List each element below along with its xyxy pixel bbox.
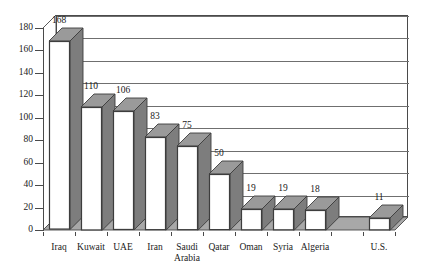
x-axis-tick	[331, 232, 332, 236]
y-axis-tick-label: 100	[2, 112, 33, 122]
y-axis-tick-stub	[35, 230, 43, 231]
y-axis-tick-stub	[35, 118, 43, 119]
y-axis-tick-label: 120	[2, 89, 33, 99]
y-axis-tick-stub	[35, 28, 43, 29]
y-axis-tick-stub	[35, 50, 43, 51]
x-axis-tick	[235, 232, 236, 236]
bar	[369, 205, 405, 232]
y-axis-tick-label: 160	[2, 44, 33, 54]
bar-value-label: 11	[361, 192, 398, 202]
bar	[81, 94, 117, 232]
y-axis-tick-stub	[35, 185, 43, 186]
y-axis-tick-label: 80	[2, 134, 33, 144]
bar	[273, 196, 309, 232]
y-axis-tick-label: 180	[2, 22, 33, 32]
y-axis-tick-label: 0	[2, 224, 33, 234]
x-axis-tick	[267, 232, 268, 236]
bar-value-label: 168	[41, 15, 78, 25]
x-axis-tick	[75, 232, 76, 236]
gridline	[57, 61, 409, 62]
bar-value-label: 106	[105, 85, 142, 95]
x-axis-tick	[43, 232, 44, 236]
bar	[49, 28, 85, 232]
y-axis-tick-stub	[35, 95, 43, 96]
bar-value-label: 18	[297, 184, 334, 194]
x-axis-tick	[107, 232, 108, 236]
bar	[305, 197, 341, 232]
bar-value-label: 75	[169, 120, 206, 130]
x-axis-tick	[203, 232, 204, 236]
x-axis-category-label: Algeria	[294, 242, 336, 253]
x-axis-tick	[139, 232, 140, 236]
y-axis-tick-label: 60	[2, 157, 33, 167]
y-axis-tick-label: 20	[2, 202, 33, 212]
y-axis-tick-stub	[35, 140, 43, 141]
x-axis-tick	[171, 232, 172, 236]
x-axis-category-label: U.S.	[358, 242, 400, 253]
x-axis-tick	[363, 232, 364, 236]
gridline	[57, 38, 409, 39]
y-axis-tick-stub	[35, 73, 43, 74]
bar-chart: 020406080100120140160180 168110106837550…	[0, 0, 425, 274]
bar	[209, 161, 245, 232]
bar	[241, 196, 277, 232]
gridline	[57, 16, 409, 17]
bar-value-label: 50	[201, 148, 238, 158]
y-axis-tick-stub	[35, 163, 43, 164]
x-axis-tick	[299, 232, 300, 236]
y-axis-line	[43, 28, 44, 231]
x-axis-tick	[395, 232, 396, 236]
bar	[145, 124, 181, 232]
y-axis-tick-label: 140	[2, 67, 33, 77]
y-axis-tick-label: 40	[2, 179, 33, 189]
